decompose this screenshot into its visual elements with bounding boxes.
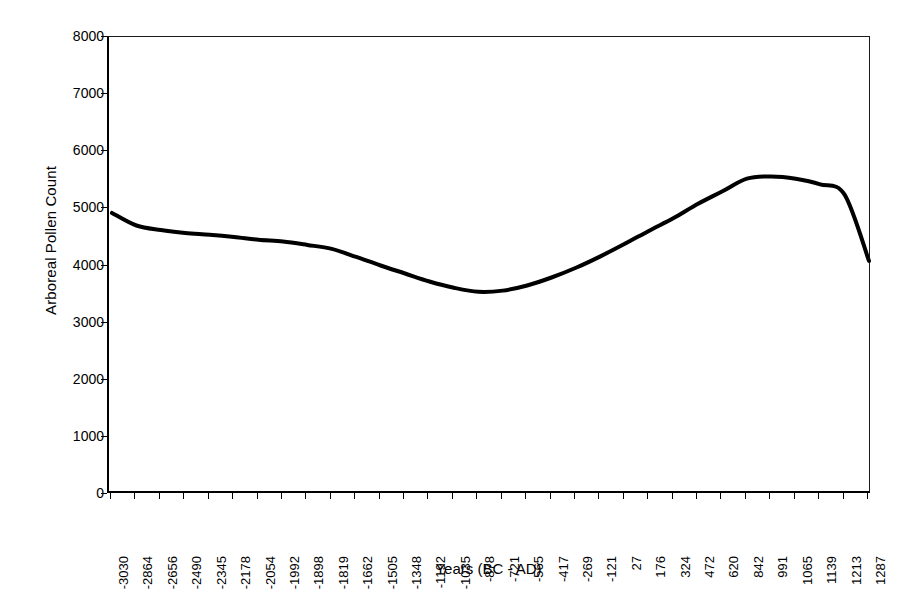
x-axis-tick-marks: [107, 493, 870, 500]
x-axis-tick-label: -2864: [127, 500, 141, 556]
x-axis-tick-label: -1992: [274, 500, 288, 556]
x-axis-tick-mark: [476, 493, 477, 499]
data-line-path: [112, 176, 869, 292]
y-axis-tick-label: 4000: [4, 258, 104, 272]
x-axis-tick-label: -1505: [372, 500, 386, 556]
x-axis-tick-mark: [574, 493, 575, 499]
x-axis-tick-label: -1192: [420, 500, 434, 556]
plot-area: [107, 36, 870, 493]
x-axis-tick-mark: [525, 493, 526, 499]
x-axis-tick-label: 176: [640, 500, 654, 556]
x-axis-tick-mark: [501, 493, 502, 499]
x-axis-tick-mark: [134, 493, 135, 499]
x-axis-tick-label: -3030: [103, 500, 117, 556]
y-axis-tick-label: 0: [4, 486, 104, 500]
x-axis-tick-label: 620: [713, 500, 727, 556]
x-axis-tick-mark: [159, 493, 160, 499]
x-axis-tick-mark: [427, 493, 428, 499]
series-line-arboreal-pollen-count: [109, 37, 872, 494]
x-axis-tick-mark: [330, 493, 331, 499]
x-axis-tick-mark: [745, 493, 746, 499]
y-axis-tick-label: 8000: [4, 29, 104, 43]
x-axis-tick-mark: [403, 493, 404, 499]
y-axis-tick-label: 1000: [4, 429, 104, 443]
x-axis-tick-mark: [550, 493, 551, 499]
x-axis-tick-mark: [208, 493, 209, 499]
y-axis-tick-label: 2000: [4, 372, 104, 386]
y-axis-tick-label: 5000: [4, 200, 104, 214]
x-axis-tick-mark: [769, 493, 770, 499]
x-axis-tick-mark: [281, 493, 282, 499]
x-axis-tick-labels: -3030-2864-2656-2490-2345-2178-2054-1992…: [107, 500, 870, 560]
x-axis-tick-label: -2490: [176, 500, 190, 556]
x-axis-tick-mark: [232, 493, 233, 499]
x-axis-tick-mark: [672, 493, 673, 499]
x-axis-tick-label: -121: [591, 500, 605, 556]
x-axis-tick-mark: [818, 493, 819, 499]
x-axis-tick-mark: [598, 493, 599, 499]
x-axis-tick-label: -1898: [298, 500, 312, 556]
y-axis-tick-label: 3000: [4, 315, 104, 329]
x-axis-tick-label: 991: [762, 500, 776, 556]
x-axis-tick-label: 1213: [836, 500, 850, 556]
x-axis-tick-mark: [354, 493, 355, 499]
x-axis-tick-mark: [452, 493, 453, 499]
x-axis-tick-label: -2345: [201, 500, 215, 556]
x-axis-tick-mark: [720, 493, 721, 499]
x-axis-tick-label: -878: [469, 500, 483, 556]
x-axis-tick-label: 472: [689, 500, 703, 556]
x-axis-tick-mark: [110, 493, 111, 499]
x-axis-tick-label: 1139: [811, 500, 825, 556]
x-axis-title: Years (BC - AD): [107, 560, 870, 577]
chart-figure: Arboreal Pollen Count 010002000300040005…: [0, 0, 901, 598]
x-axis-tick-mark: [867, 493, 868, 499]
x-axis-tick-mark: [305, 493, 306, 499]
x-axis-tick-label: -1819: [323, 500, 337, 556]
x-axis-tick-label: -721: [494, 500, 508, 556]
x-axis-tick-label: -2656: [152, 500, 166, 556]
x-axis-tick-label: -565: [518, 500, 532, 556]
y-axis-tick-labels: 010002000300040005000600070008000: [0, 0, 104, 598]
x-axis-tick-mark: [843, 493, 844, 499]
x-axis-tick-mark: [379, 493, 380, 499]
x-axis-tick-mark: [647, 493, 648, 499]
x-axis-tick-mark: [794, 493, 795, 499]
x-axis-tick-label: 1065: [787, 500, 801, 556]
y-axis-tick-label: 7000: [4, 86, 104, 100]
x-axis-tick-label: -2178: [225, 500, 239, 556]
x-axis-tick-label: -1348: [396, 500, 410, 556]
x-axis-tick-label: 1287: [860, 500, 874, 556]
x-axis-tick-label: 27: [616, 500, 630, 556]
x-axis-tick-mark: [696, 493, 697, 499]
x-axis-tick-mark: [257, 493, 258, 499]
x-axis-tick-label: 842: [738, 500, 752, 556]
x-axis-tick-label: 324: [665, 500, 679, 556]
x-axis-tick-label: -417: [543, 500, 557, 556]
x-axis-tick-label: -2054: [250, 500, 264, 556]
x-axis-tick-mark: [623, 493, 624, 499]
x-axis-tick-label: -1662: [347, 500, 361, 556]
y-axis-tick-label: 6000: [4, 143, 104, 157]
x-axis-tick-mark: [183, 493, 184, 499]
x-axis-tick-label: -1035: [445, 500, 459, 556]
x-axis-tick-label: -269: [567, 500, 581, 556]
